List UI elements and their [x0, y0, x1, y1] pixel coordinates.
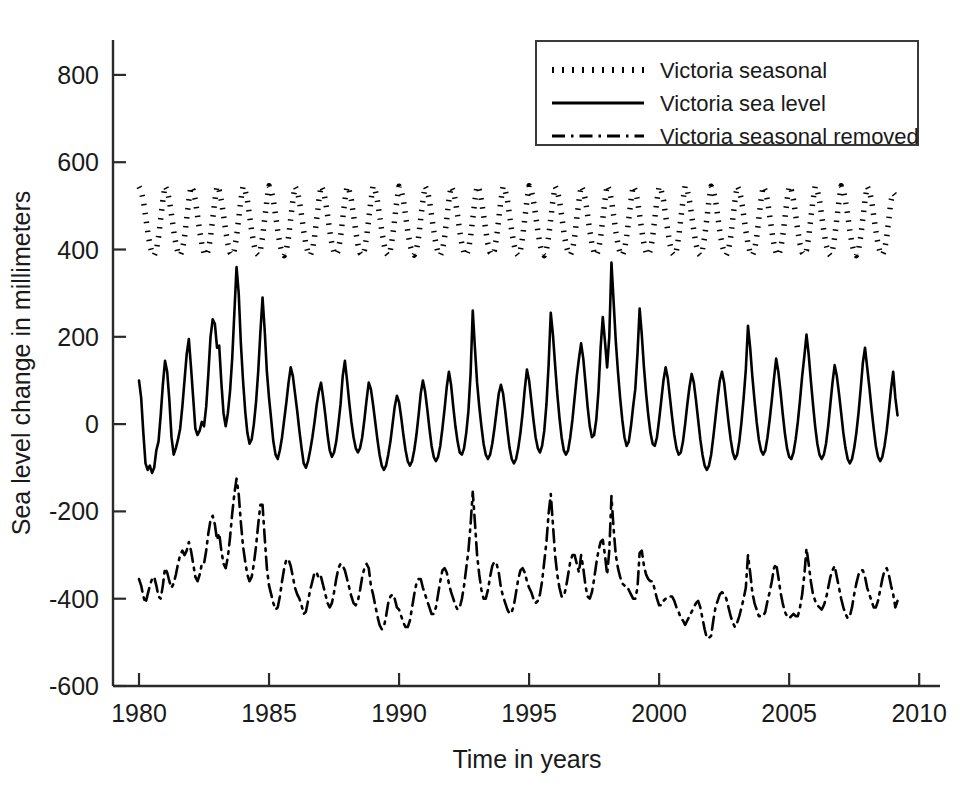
chart-figure: -600-400-2000200400600800 19801985199019… [0, 0, 962, 789]
y-axis-title: Sea level change in millimeters [7, 191, 35, 536]
y-tick-label: 200 [57, 323, 99, 351]
y-tick-label: 600 [57, 148, 99, 176]
x-axis-title: Time in years [452, 745, 601, 773]
x-tick-label: 2005 [761, 699, 817, 727]
x-axis-ticks [139, 673, 919, 686]
legend-label-0: Victoria seasonal [660, 58, 827, 83]
x-tick-label: 1980 [111, 699, 167, 727]
x-tick-label: 1985 [241, 699, 297, 727]
x-axis-tick-labels: 1980198519901995200020052010 [111, 699, 947, 727]
y-tick-label: 0 [85, 410, 99, 438]
x-tick-label: 2010 [891, 699, 947, 727]
series-line-1 [139, 263, 898, 473]
y-tick-label: -600 [49, 672, 99, 700]
y-tick-label: 400 [57, 236, 99, 264]
x-tick-label: 2000 [631, 699, 687, 727]
y-tick-label: 800 [57, 61, 99, 89]
x-tick-label: 1995 [501, 699, 557, 727]
sea-level-chart: -600-400-2000200400600800 19801985199019… [0, 0, 962, 789]
series-line-2 [139, 479, 898, 638]
legend-label-2: Victoria seasonal removed [660, 124, 919, 149]
y-tick-label: -200 [49, 497, 99, 525]
chart-legend: Victoria seasonalVictoria sea levelVicto… [536, 41, 919, 149]
data-series-layer [139, 185, 898, 638]
legend-label-1: Victoria sea level [660, 91, 826, 116]
y-axis-ticks [113, 75, 126, 686]
y-tick-label: -400 [49, 585, 99, 613]
series-line-0 [139, 185, 898, 256]
x-tick-label: 1990 [371, 699, 427, 727]
y-axis-tick-labels: -600-400-2000200400600800 [49, 61, 99, 700]
